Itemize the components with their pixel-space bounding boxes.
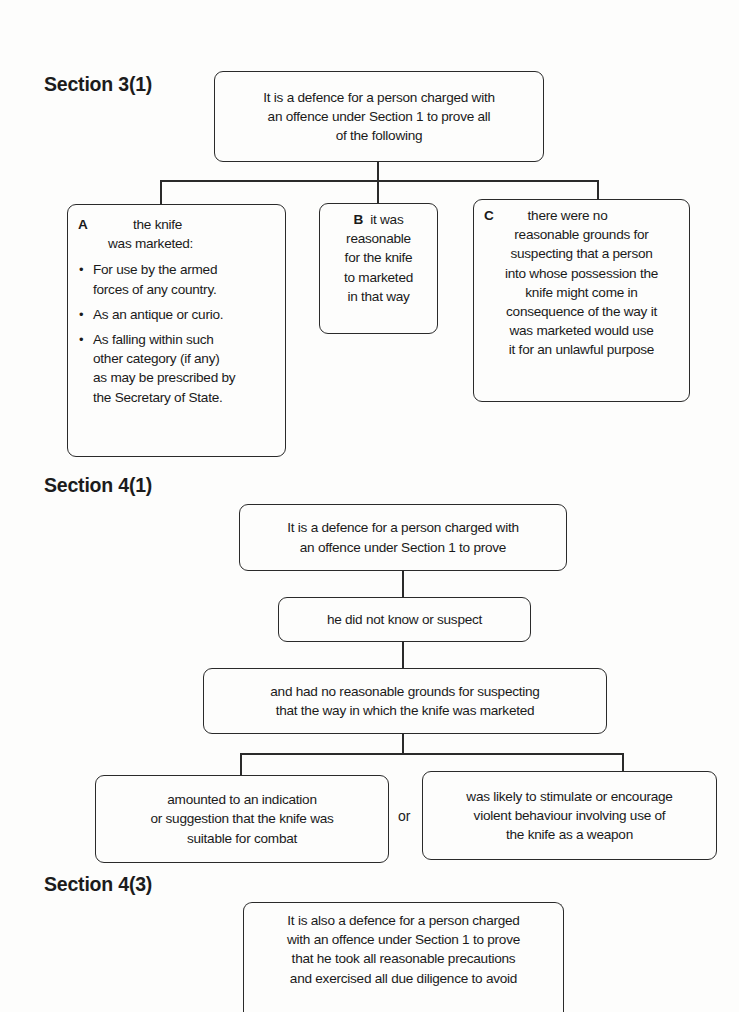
connector [160,180,162,204]
connector [377,162,379,181]
combat-indication-box: amounted to an indication or suggestion … [95,775,389,863]
section-4-3-heading: Section 4(3) [44,873,152,896]
combat-line: suitable for combat [102,829,382,848]
condition-c-first-text: there were no [528,208,608,223]
diligence-line: It is also a defence for a person charge… [250,911,557,930]
connector [240,753,242,775]
condition-b-line: in that way [326,287,431,306]
condition-a-bullet: For use by the armed forces of any count… [78,260,277,298]
grounds-line: and had no reasonable grounds for suspec… [210,682,600,701]
did-not-know-box: he did not know or suspect [278,597,531,642]
diligence-line: with an offence under Section 1 to prove [250,930,557,949]
condition-b-tag: B [354,212,364,227]
root-line: It is a defence for a person charged wit… [221,88,537,107]
condition-c-line: suspecting that a person [480,244,683,263]
bullet-line: other category (if any) [93,349,277,368]
connector [402,642,404,668]
violent-line: the knife as a weapon [429,825,710,844]
due-diligence-box: It is also a defence for a person charge… [243,902,564,1012]
connector [377,180,379,203]
section-4-1-heading: Section 4(1) [44,474,152,497]
diligence-line: that he took all reasonable precautions [250,949,557,968]
connector [240,753,623,755]
connector [622,753,624,771]
combat-line: or suggestion that the knife was [102,809,382,828]
section-3-1-root-box: It is a defence for a person charged wit… [214,71,544,162]
condition-c-tag: C [484,208,494,223]
root-line: an offence under Section 1 to prove [246,538,560,557]
diligence-line: and exercised all due diligence to avoid [250,969,557,988]
condition-c-line: into whose possession the [480,264,683,283]
condition-c-line: reasonable grounds for [480,225,683,244]
bullet-line: as may be prescribed by [93,368,277,387]
or-label: or [398,808,410,824]
condition-a-head: was marketed: [108,234,193,253]
connector [402,571,404,597]
did-not-know-text: he did not know or suspect [285,610,524,629]
condition-b-box: B it was reasonable for the knife to mar… [319,203,438,334]
violent-behaviour-box: was likely to stimulate or encourage vio… [422,771,717,860]
condition-a-head: the knife [122,215,193,234]
bullet-line: forces of any country. [93,280,277,299]
condition-b-first: B it was [326,210,431,229]
section-4-1-root-box: It is a defence for a person charged wit… [239,504,567,571]
root-line: of the following [221,126,537,145]
condition-b-line: for the knife [326,248,431,267]
condition-b-line: to marketed [326,268,431,287]
connector [597,180,599,199]
grounds-line: that the way in which the knife was mark… [210,701,600,720]
root-line: an offence under Section 1 to prove all [221,107,537,126]
connector [160,180,598,182]
bullet-line: As falling within such [93,330,277,349]
condition-c-line: was marketed would use [480,321,683,340]
bullet-line: For use by the armed [93,260,277,279]
condition-a-bullet: As an antique or curio. [78,305,277,324]
violent-line: violent behaviour involving use of [429,806,710,825]
condition-a-list: For use by the armed forces of any count… [78,260,277,412]
section-3-1-heading: Section 3(1) [44,73,152,96]
condition-c-line: knife might come in [480,283,683,302]
combat-line: amounted to an indication [102,790,382,809]
no-reasonable-grounds-box: and had no reasonable grounds for suspec… [203,668,607,734]
condition-c-line: consequence of the way it [480,302,683,321]
condition-c-box: Cthere were no reasonable grounds for su… [473,199,690,402]
root-line: It is a defence for a person charged wit… [246,518,560,537]
bullet-line: the Secretary of State. [93,388,277,407]
condition-c-first: Cthere were no [480,206,683,225]
violent-line: was likely to stimulate or encourage [429,787,710,806]
connector [402,734,404,754]
condition-a-box: A the knife was marketed: For use by the… [67,204,286,457]
condition-a-bullet: As falling within such other category (i… [78,330,277,407]
condition-c-line: it for an unlawful purpose [480,340,683,359]
condition-b-first-text: it was [370,212,403,227]
condition-b-line: reasonable [326,229,431,248]
bullet-line: As an antique or curio. [93,305,277,324]
